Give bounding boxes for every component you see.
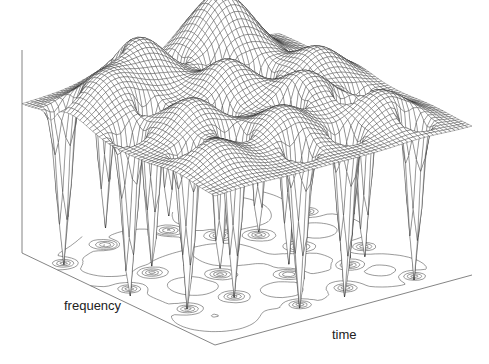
surface-mesh [22, 0, 472, 309]
time-axis-label: time [332, 327, 357, 342]
frequency-axis-label: frequency [64, 298, 121, 313]
